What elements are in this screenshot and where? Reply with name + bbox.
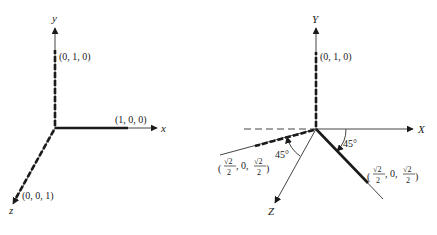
Y-unit-label: (0, 1, 0)	[320, 51, 352, 63]
left-diagram: y (0, 1, 0) x (1, 0, 0) z (0, 0, 1)	[8, 12, 166, 216]
coordinate-rotation-diagram: y (0, 1, 0) x (1, 0, 0) z (0, 0, 1) Y (0…	[0, 0, 437, 235]
x-unit-label: (1, 0, 0)	[115, 114, 147, 126]
svg-text:√2: √2	[224, 157, 232, 166]
y-unit-label: (0, 1, 0)	[59, 51, 91, 63]
svg-text:): )	[415, 171, 418, 183]
svg-text:): )	[266, 163, 269, 175]
svg-text:, 0,: , 0,	[236, 160, 249, 171]
X-axis-label: X	[417, 123, 426, 135]
rotated-right-label: ( √2 2 , 0, √2 2 )	[367, 165, 418, 185]
y-axis-label: y	[51, 12, 57, 24]
svg-text:2: 2	[406, 176, 410, 185]
z-axis-label: z	[8, 204, 14, 216]
svg-text:2: 2	[257, 168, 261, 177]
svg-text:√2: √2	[373, 165, 381, 174]
svg-text:(: (	[218, 163, 222, 175]
svg-text:√2: √2	[254, 157, 262, 166]
svg-text:2: 2	[227, 168, 231, 177]
right-diagram: Y (0, 1, 0) X Z 45° 45° ( √2 2 , 0, √2	[218, 13, 426, 217]
svg-text:(: (	[367, 171, 371, 183]
angle-label-left: 45°	[275, 149, 289, 160]
svg-text:√2: √2	[403, 165, 411, 174]
z-unit-label: (0, 0, 1)	[22, 190, 54, 202]
Y-axis-label: Y	[312, 13, 320, 25]
svg-text:2: 2	[376, 176, 380, 185]
angle-label-right: 45°	[343, 138, 357, 149]
rotated-right-vector	[316, 129, 368, 183]
rotated-left-label: ( √2 2 , 0, √2 2 )	[218, 157, 269, 177]
Z-axis-label: Z	[268, 205, 275, 217]
svg-text:, 0,: , 0,	[385, 168, 398, 179]
x-axis-label: x	[160, 122, 166, 134]
